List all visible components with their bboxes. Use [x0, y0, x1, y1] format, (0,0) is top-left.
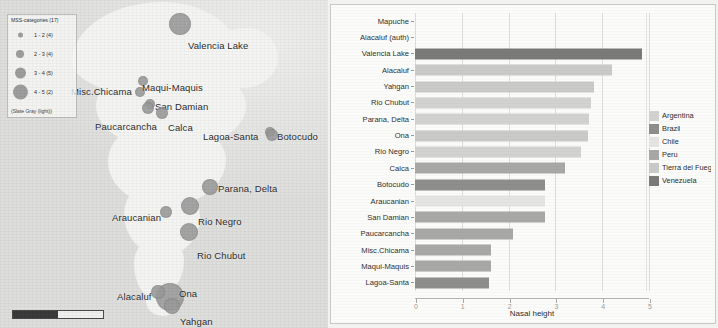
y-tick-mark	[411, 266, 414, 267]
bar-row[interactable]: Botocudo	[415, 177, 649, 193]
x-axis-label: Nasal height	[415, 309, 649, 318]
map-site-label: Paucarcancha	[95, 121, 157, 132]
chart-legend-item[interactable]: Venezuela	[649, 174, 711, 187]
map-site-dot[interactable]	[202, 179, 218, 195]
bar[interactable]	[415, 65, 612, 76]
map-legend-title: MSS-categories (17)	[11, 17, 59, 23]
bar-category-label: Mapuche	[378, 17, 409, 26]
map-site-label: Parana, Delta	[218, 183, 277, 194]
bar-row[interactable]: Parana, Delta	[415, 111, 649, 127]
map-legend-item-label: 2 - 3 (4)	[34, 51, 53, 57]
bar-category-label: Lagoa-Santa	[366, 278, 410, 287]
bar[interactable]	[415, 261, 491, 272]
map-site-label: Misc.Chicama	[71, 86, 132, 97]
chart-legend-item[interactable]: Argentina	[649, 109, 711, 122]
chart-legend[interactable]: ArgentinaBrazilChilePeruTierra del Fuego…	[649, 109, 711, 187]
chart-legend-item[interactable]: Brazil	[649, 122, 711, 135]
chart-legend-item[interactable]: Chile	[649, 135, 711, 148]
map-site-dot[interactable]	[142, 102, 154, 114]
y-tick-mark	[411, 21, 414, 22]
map-site-dot[interactable]	[181, 197, 199, 215]
bar-category-label: Botocudo	[377, 180, 409, 189]
bar[interactable]	[415, 48, 642, 59]
chart-legend-item[interactable]: Peru	[649, 148, 711, 161]
bar-rows: MapucheAlacaluf (auth)Valencia LakeAlaca…	[415, 13, 649, 291]
map-legend-item-label: 3 - 4 (5)	[34, 70, 53, 76]
map-legend-item: 4 - 5 (2)	[12, 84, 74, 100]
bar-row[interactable]: Valencia Lake	[415, 46, 649, 62]
bar-row[interactable]: Mapuche	[415, 13, 649, 29]
bar-row[interactable]: Rio Chubut	[415, 95, 649, 111]
bar-row[interactable]: Lagoa-Santa	[415, 275, 649, 291]
chart-legend-label: Brazil	[662, 124, 680, 133]
bar[interactable]	[415, 212, 545, 223]
bar-category-label: Yahgan	[383, 82, 409, 91]
chart-legend-swatch	[649, 124, 659, 134]
bar-row[interactable]: Calca	[415, 160, 649, 176]
bar[interactable]	[415, 179, 545, 190]
map-legend-item: 3 - 4 (5)	[12, 65, 74, 81]
chart-legend-item[interactable]: Tierra del Fuego	[649, 161, 711, 174]
y-tick-mark	[411, 282, 414, 283]
bar-row[interactable]: Ona	[415, 127, 649, 143]
x-axis	[415, 298, 649, 299]
map-site-dot[interactable]	[151, 285, 165, 299]
bar[interactable]	[415, 196, 545, 207]
bar-category-label: Araucanian	[371, 197, 409, 206]
screenshot-root: Valencia LakeMisc.ChicamaMaqui-MaquisSan…	[0, 0, 718, 328]
legend-divider	[646, 13, 647, 291]
bar-category-label: Misc.Chicama	[361, 246, 409, 255]
bar-row[interactable]: Araucanian	[415, 193, 649, 209]
bar[interactable]	[415, 130, 588, 141]
bar-row[interactable]: Alacaluf (auth)	[415, 29, 649, 45]
bar-row[interactable]: San Damian	[415, 209, 649, 225]
bar[interactable]	[415, 146, 581, 157]
y-tick-mark	[411, 217, 414, 218]
bar-row[interactable]: Yahgan	[415, 78, 649, 94]
map-site-dot[interactable]	[156, 107, 168, 119]
bar[interactable]	[415, 277, 489, 288]
map-legend-note: (Slate Gray (light))	[11, 108, 52, 114]
map-site-dot[interactable]	[180, 223, 198, 241]
map-site-dot[interactable]	[169, 13, 191, 35]
y-tick-mark	[411, 102, 414, 103]
scale-bar-segment	[13, 311, 58, 318]
bar-row[interactable]: Maqui-Maquis	[415, 258, 649, 274]
map-site-label: Ona	[179, 288, 197, 299]
y-tick-mark	[411, 135, 414, 136]
map-scale-bar	[12, 310, 104, 319]
chart-legend-swatch	[649, 176, 659, 186]
y-tick-mark	[411, 119, 414, 120]
bar[interactable]	[415, 114, 589, 125]
bar[interactable]	[415, 228, 513, 239]
bar-row[interactable]: Paucarcancha	[415, 226, 649, 242]
bar[interactable]	[415, 245, 491, 256]
y-tick-mark	[411, 168, 414, 169]
bar-row[interactable]: Alacaluf	[415, 62, 649, 78]
map-site-dot[interactable]	[160, 206, 172, 218]
nasal-height-bar-chart[interactable]: MapucheAlacaluf (auth)Valencia LakeAlaca…	[330, 4, 716, 324]
bar-category-label: Parana, Delta	[363, 115, 409, 124]
bar-category-label: Rio Chubut	[371, 98, 409, 107]
bar[interactable]	[415, 97, 591, 108]
y-tick-mark	[411, 37, 414, 38]
bar[interactable]	[415, 81, 594, 92]
map-site-label: Alacaluf	[117, 291, 152, 302]
map-site-label: Maqui-Maquis	[142, 82, 203, 93]
chart-legend-label: Peru	[662, 150, 678, 159]
chart-legend-label: Venezuela	[662, 176, 697, 185]
bar-category-label: Alacaluf	[382, 66, 409, 75]
map-legend-dot-icon	[18, 33, 23, 38]
bar[interactable]	[415, 163, 565, 174]
map-legend-dot-icon	[15, 68, 26, 79]
y-tick-mark	[411, 151, 414, 152]
map-site-label: Botocudo	[277, 131, 318, 142]
bar-row[interactable]: Misc.Chicama	[415, 242, 649, 258]
chart-legend-label: Argentina	[662, 111, 694, 120]
distribution-map[interactable]: Valencia LakeMisc.ChicamaMaqui-MaquisSan…	[0, 0, 328, 328]
bar-row[interactable]: Rio Negro	[415, 144, 649, 160]
map-site-dot[interactable]	[164, 298, 180, 314]
y-tick-mark	[411, 233, 414, 234]
map-site-label: Rio Negro	[198, 216, 242, 227]
bar-category-label: Alacaluf (auth)	[360, 33, 409, 42]
